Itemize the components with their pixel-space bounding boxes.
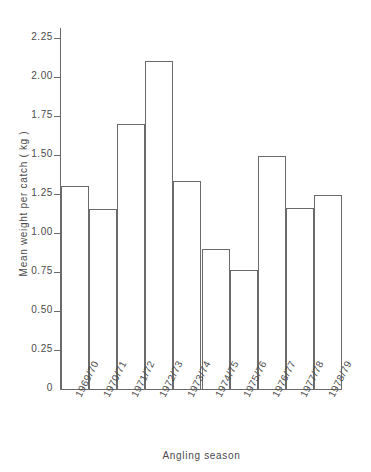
y-axis-tick-mark	[54, 311, 61, 312]
bar-chart: Mean weight per catch ( kg ) 00.250.500.…	[0, 0, 371, 472]
y-axis-tick-mark	[54, 116, 61, 117]
y-axis-tick-mark	[54, 77, 61, 78]
y-axis-tick-label: 1.50	[8, 148, 53, 159]
y-axis-tick-label-group: 00.250.500.751.001.251.501.752.002.25	[8, 0, 53, 472]
y-axis-tick-mark	[54, 272, 61, 273]
y-axis-tick-mark	[54, 38, 61, 39]
y-axis-tick-label: 2.00	[8, 70, 53, 81]
y-axis-tick-label: 1.00	[8, 226, 53, 237]
y-axis-tick-label: 0.25	[8, 343, 53, 354]
bar	[145, 61, 173, 389]
bar	[173, 181, 201, 389]
bar	[258, 156, 286, 389]
y-axis-tick-label: 2.25	[8, 31, 53, 42]
y-axis-tick-mark	[54, 233, 61, 234]
y-axis-tick-label: 0.75	[8, 265, 53, 276]
y-axis-tick-label: 0.50	[8, 304, 53, 315]
x-axis-title: Angling season	[61, 450, 342, 461]
y-axis-tick-mark	[54, 155, 61, 156]
bar	[117, 124, 145, 389]
y-axis-tick-mark	[54, 350, 61, 351]
bar	[61, 186, 89, 389]
y-axis-tick-label: 0	[8, 382, 53, 393]
y-axis-tick-label: 1.75	[8, 109, 53, 120]
plot-area	[61, 28, 342, 389]
y-axis-tick-mark	[54, 194, 61, 195]
y-axis-tick-label: 1.25	[8, 187, 53, 198]
